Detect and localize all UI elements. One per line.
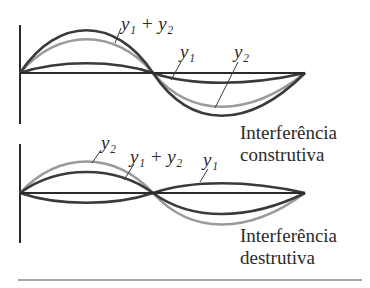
sum-label: y₁ + y₂: [119, 13, 174, 34]
destructive-caption: Interferência destrutiva: [240, 225, 337, 269]
y2-label: y₂: [232, 41, 249, 62]
y2-leader-line: [215, 62, 238, 108]
caption-line: destrutiva: [240, 247, 337, 269]
sum-label: y₁ + y₂: [128, 146, 183, 167]
constructive-caption: Interferência construtiva: [240, 122, 337, 166]
caption-line: Interferência: [240, 122, 337, 144]
caption-line: construtiva: [240, 144, 337, 166]
y2-label: y₂: [99, 132, 116, 153]
y1-label: y₁: [178, 41, 195, 62]
y1-label: y₁: [201, 149, 218, 170]
y1-leader-line: [200, 169, 208, 182]
y1-leader-line: [171, 62, 181, 80]
constructive-panel: y₁ + y₂ y₁ y₂: [20, 13, 305, 124]
caption-line: Interferência: [240, 225, 337, 247]
